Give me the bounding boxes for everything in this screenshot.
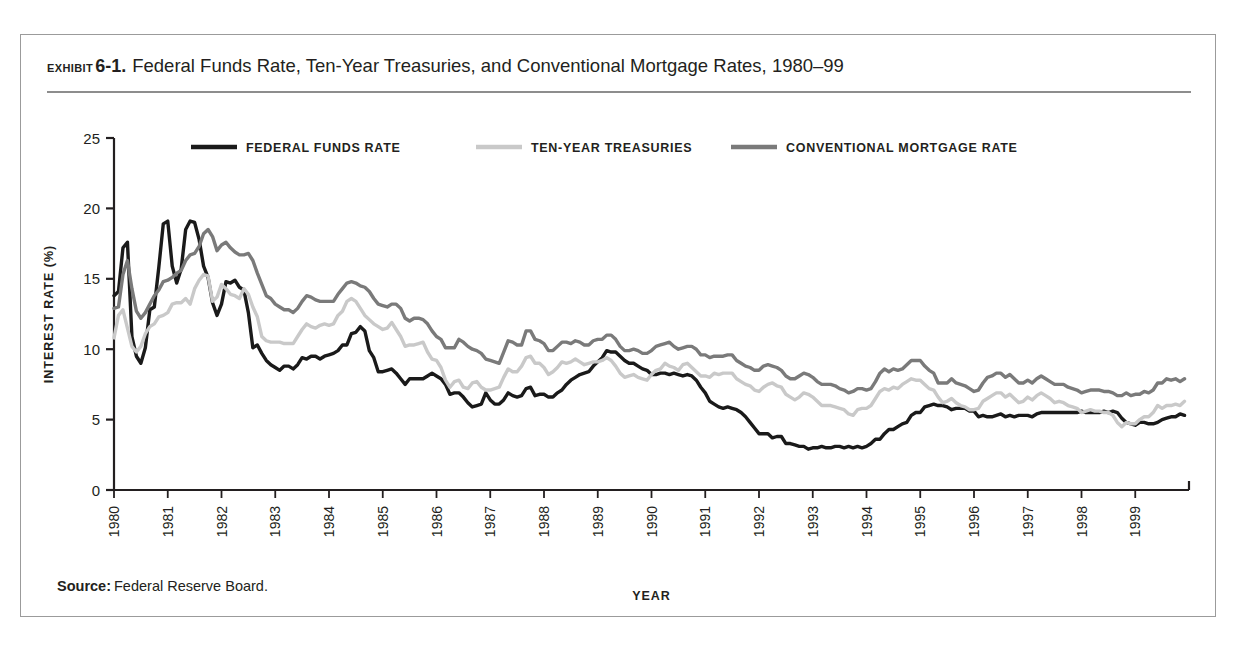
x-tick-label: 1990 [644, 506, 660, 537]
x-tick-label: 1980 [106, 506, 122, 537]
chart-canvas: 0510152025198019811982198319841985198619… [21, 35, 1217, 618]
x-tick-label: 1982 [214, 506, 230, 537]
x-tick-label: 1995 [912, 506, 928, 537]
legend-label-2: CONVENTIONAL MORTGAGE RATE [786, 141, 1018, 155]
x-tick-label: 1991 [697, 506, 713, 537]
y-tick-label: 20 [83, 200, 100, 217]
x-tick-label: 1992 [751, 506, 767, 537]
x-tick-label: 1985 [375, 506, 391, 537]
y-tick-label: 15 [83, 270, 100, 287]
x-tick-label: 1989 [590, 506, 606, 537]
legend-label-1: TEN-YEAR TREASURIES [531, 141, 692, 155]
source-text: Federal Reserve Board. [114, 578, 268, 594]
x-tick-label: 1983 [267, 506, 283, 537]
x-tick-label: 1986 [429, 506, 445, 537]
x-tick-label: 1984 [321, 506, 337, 537]
x-tick-label: 1996 [966, 506, 982, 537]
legend-label-0: FEDERAL FUNDS RATE [246, 141, 401, 155]
y-axis-title: INTEREST RATE (%) [42, 245, 56, 383]
y-tick-label: 10 [83, 341, 100, 358]
exhibit-frame: EXHIBIT6-1.Federal Funds Rate, Ten-Year … [20, 34, 1216, 617]
x-tick-label: 1981 [160, 506, 176, 537]
line-chart: 0510152025198019811982198319841985198619… [21, 35, 1217, 618]
x-tick-label: 1988 [536, 506, 552, 537]
y-tick-label: 25 [83, 130, 100, 147]
x-tick-label: 1999 [1127, 506, 1143, 537]
x-axis-title: YEAR [632, 589, 671, 603]
y-tick-label: 0 [92, 482, 100, 499]
x-tick-label: 1998 [1074, 506, 1090, 537]
source-note: Source:Federal Reserve Board. [57, 578, 268, 594]
source-label: Source: [57, 578, 111, 594]
x-tick-label: 1987 [482, 506, 498, 537]
y-tick-label: 5 [92, 411, 100, 428]
series-line-0 [114, 221, 1185, 449]
x-tick-label: 1994 [859, 506, 875, 537]
x-tick-label: 1997 [1020, 506, 1036, 537]
x-tick-label: 1993 [805, 506, 821, 537]
